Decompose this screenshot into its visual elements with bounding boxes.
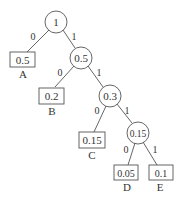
edge-label-n2-C: 0 xyxy=(95,105,100,116)
leaf-D-value: 0.05 xyxy=(117,168,135,179)
leaf-C-value: 0.15 xyxy=(82,134,102,146)
edge-label-n3-E: 1 xyxy=(153,144,158,155)
node-n3-value: 0.15 xyxy=(130,129,147,139)
edge-label-n1-B: 0 xyxy=(58,67,63,78)
leaf-E-value: 0.1 xyxy=(155,168,168,179)
leaf-B-value: 0.2 xyxy=(45,90,59,102)
edge-label-n2-n3: 1 xyxy=(125,105,130,116)
node-root-value: 1 xyxy=(53,16,59,28)
edge-label-n3-D: 0 xyxy=(124,144,129,155)
edge-label-root-n1: 1 xyxy=(72,31,77,42)
edge-n3-D xyxy=(128,143,135,165)
huffman-tree-diagram: 1 0.5 0.3 0.15 0.5 0.2 0.15 0.05 0.1 A B… xyxy=(0,0,184,200)
edge-label-n1-n2: 1 xyxy=(97,67,102,78)
leaf-B-label: B xyxy=(48,105,55,117)
leaf-E-label: E xyxy=(157,181,164,193)
leaf-A-value: 0.5 xyxy=(16,54,30,66)
node-n2-value: 0.3 xyxy=(103,90,117,102)
edge-label-root-A: 0 xyxy=(31,31,36,42)
leaf-A-label: A xyxy=(19,68,27,80)
leaf-C-label: C xyxy=(88,149,95,161)
leaf-D-label: D xyxy=(123,181,131,193)
node-n1-value: 0.5 xyxy=(74,52,88,64)
